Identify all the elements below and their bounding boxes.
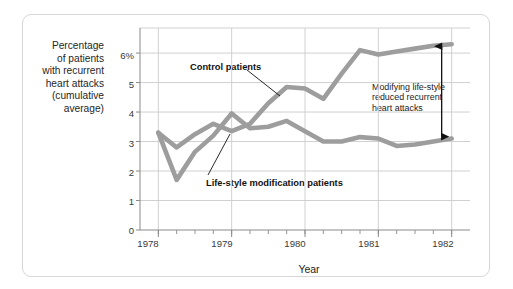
chart-svg	[0, 0, 513, 289]
figure-container: Percentage of patients with recurrent he…	[0, 0, 513, 289]
